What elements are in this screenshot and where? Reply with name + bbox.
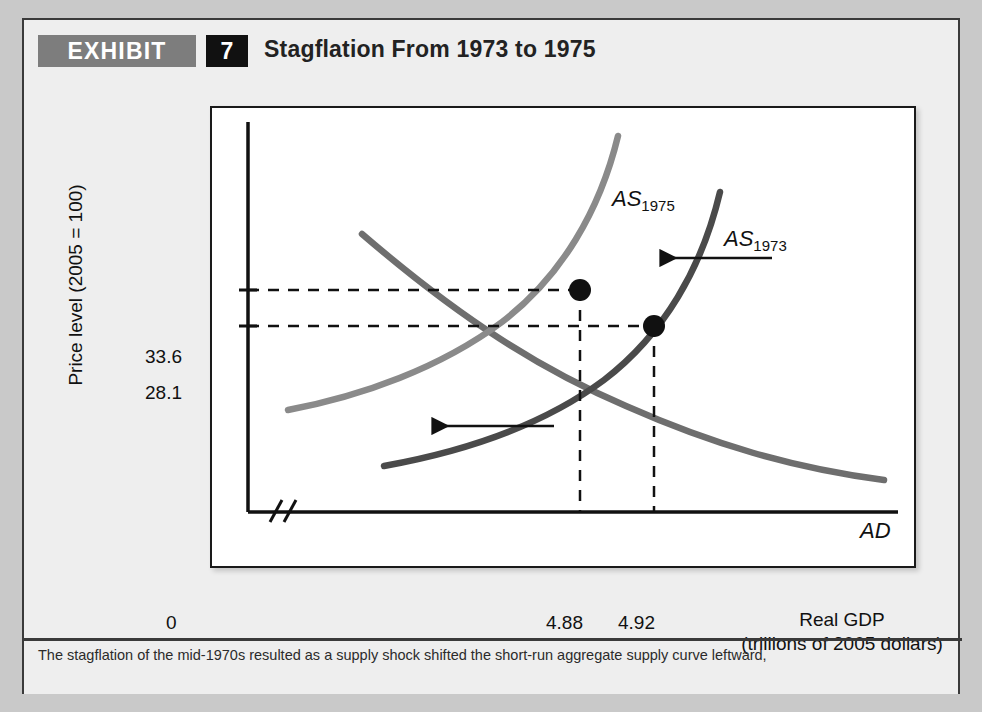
curve-label-ad: AD: [860, 518, 891, 544]
curve-label-as-1973: AS1973: [724, 226, 787, 254]
exhibit-caption: The stagflation of the mid-1970s resulte…: [38, 646, 946, 665]
x-tick-label-4-92: 4.92: [618, 612, 655, 634]
plot-frame: [210, 106, 916, 568]
curve-label-as-1973-subscript: 1973: [753, 237, 786, 254]
y-tick-label-33-6: 33.6: [120, 346, 182, 368]
y-axis-label: Price level (2005 = 100): [65, 145, 87, 425]
chart-area: Price level (2005 = 100) 33.6 28.1 0 4.8…: [24, 78, 962, 638]
exhibit-number: 7: [206, 35, 248, 67]
equilibrium-point-1973: [643, 315, 665, 337]
exhibit-figure: EXHIBIT 7 Stagflation From 1973 to 1975 …: [22, 18, 960, 694]
curve-label-as-1975-subscript: 1975: [641, 197, 674, 214]
caption-divider: [24, 638, 962, 641]
plot-svg: [212, 108, 914, 566]
equilibrium-point-1975: [569, 279, 591, 301]
curve-as-1975: [288, 136, 618, 410]
exhibit-title: Stagflation From 1973 to 1975: [264, 36, 596, 63]
x-tick-label-4-88: 4.88: [546, 612, 583, 634]
curve-label-as-1975-text: AS: [612, 186, 641, 211]
curve-label-as-1975: AS1975: [612, 186, 675, 214]
origin-label: 0: [166, 612, 177, 634]
exhibit-header: EXHIBIT 7 Stagflation From 1973 to 1975: [24, 20, 958, 78]
x-axis-label-main: Real GDP: [724, 608, 960, 632]
exhibit-badge: EXHIBIT: [38, 35, 196, 67]
guide-lines-group: [248, 290, 654, 512]
y-tick-label-28-1: 28.1: [120, 382, 182, 404]
curve-label-as-1973-text: AS: [724, 226, 753, 251]
